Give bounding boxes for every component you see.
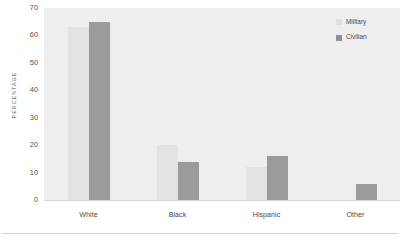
x-tick-hispanic: Hispanic (227, 210, 307, 219)
bar-chart-figure: PERCENTAGE 706050403020100 Military Civi… (0, 0, 400, 241)
bar-military-hispanic (246, 167, 267, 200)
bar-group-white (44, 8, 133, 200)
bar-group-hispanic (222, 8, 311, 200)
bar-civilian-hispanic (267, 156, 288, 200)
y-tick-50: 50 (14, 59, 38, 66)
y-tick-70: 70 (14, 4, 38, 11)
legend-swatch-military-icon (336, 19, 342, 25)
y-tick-30: 30 (14, 114, 38, 121)
y-axis-tick-labels: 706050403020100 (12, 0, 38, 241)
legend-item-civilian: Civilian (336, 34, 367, 40)
y-tick-0: 0 (14, 196, 38, 203)
x-tick-white: White (49, 210, 129, 219)
bar-civilian-other (356, 184, 377, 200)
bar-group-black (133, 8, 222, 200)
bar-civilian-black (178, 162, 199, 200)
legend-item-military: Military (336, 19, 367, 25)
bar-military-white (68, 27, 89, 200)
x-tick-other: Other (316, 210, 396, 219)
x-tick-black: Black (138, 210, 218, 219)
y-tick-60: 60 (14, 31, 38, 38)
legend-label-military: Military (346, 19, 366, 25)
legend-swatch-civilian-icon (336, 35, 342, 41)
bar-military-black (157, 145, 178, 200)
x-axis-baseline (44, 200, 400, 201)
chart-legend: Military Civilian (336, 19, 367, 50)
legend-label-civilian: Civilian (346, 34, 367, 40)
page-divider (2, 233, 398, 234)
y-tick-10: 10 (14, 169, 38, 176)
y-tick-20: 20 (14, 141, 38, 148)
y-tick-40: 40 (14, 86, 38, 93)
bar-civilian-white (89, 22, 110, 200)
